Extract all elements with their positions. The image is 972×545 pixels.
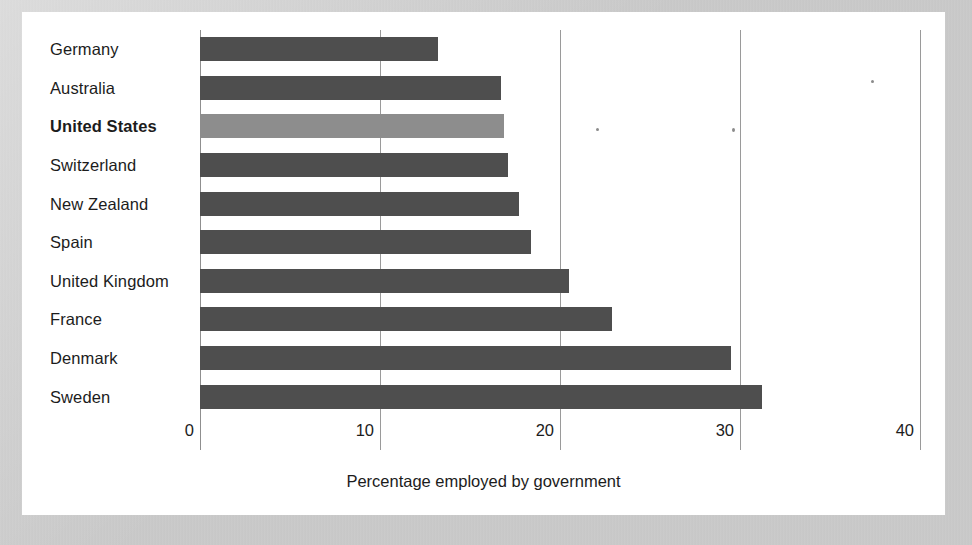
bar-category-label: Sweden (50, 387, 110, 406)
bar-row: Australia (22, 69, 945, 108)
x-tick-label-30: 30 (716, 421, 734, 440)
bar-row: France (22, 300, 945, 339)
page-background: GermanyAustraliaUnited StatesSwitzerland… (0, 0, 972, 545)
x-axis-title: Percentage employed by government (22, 472, 945, 491)
bar-category-label: New Zealand (50, 194, 148, 213)
bar-category-label: Spain (50, 233, 93, 252)
scan-speckle (871, 80, 874, 83)
bar (200, 153, 508, 177)
scan-speckle (596, 128, 599, 131)
scan-speckle (732, 128, 735, 132)
x-tick-label-20: 20 (536, 421, 554, 440)
bar-category-label: Germany (50, 40, 119, 59)
chart-panel: GermanyAustraliaUnited StatesSwitzerland… (22, 12, 945, 515)
plot-area: GermanyAustraliaUnited StatesSwitzerland… (22, 12, 945, 515)
x-tick-label-10: 10 (356, 421, 374, 440)
bar-row: United States (22, 107, 945, 146)
bar (200, 307, 612, 331)
bar-category-label: Denmark (50, 349, 118, 368)
bar (200, 192, 519, 216)
bar (200, 76, 501, 100)
bar (200, 269, 569, 293)
bar-category-label: France (50, 310, 102, 329)
bar (200, 346, 731, 370)
bar-category-label: Switzerland (50, 156, 136, 175)
x-tick-label-40: 40 (896, 421, 914, 440)
bar-category-label: Australia (50, 78, 115, 97)
bar-row: Germany (22, 30, 945, 69)
x-tick-label-0: 0 (185, 421, 194, 440)
bar-category-label: United Kingdom (50, 271, 169, 290)
bar (200, 385, 762, 409)
bar-row: Denmark (22, 339, 945, 378)
bar-row: New Zealand (22, 184, 945, 223)
bar-category-label: United States (50, 117, 157, 136)
bar (200, 114, 504, 138)
bar-row: Sweden (22, 377, 945, 416)
bar-row: Switzerland (22, 146, 945, 185)
bar-row: United Kingdom (22, 262, 945, 301)
bar-row: Spain (22, 223, 945, 262)
bar (200, 230, 531, 254)
bar (200, 37, 438, 61)
